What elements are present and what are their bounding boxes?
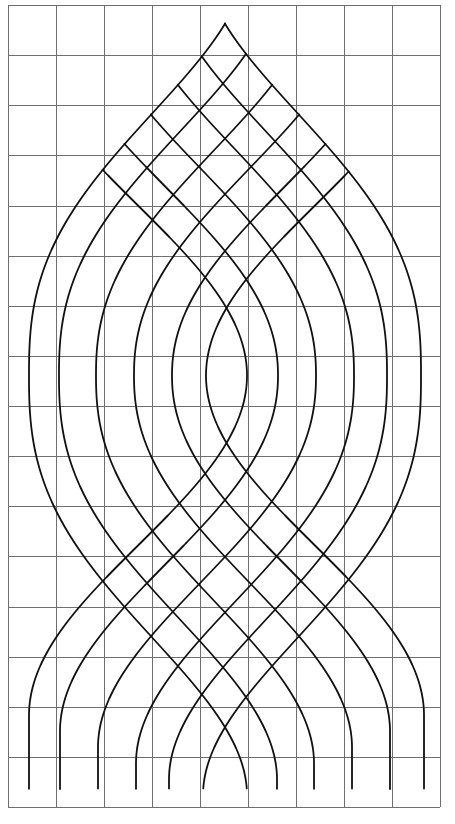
background-grid: [8, 5, 441, 808]
braid-diagram-canvas: [0, 0, 455, 824]
strand-right-5: [29, 170, 247, 789]
strand-left-3: [134, 115, 352, 789]
strand-left-5: [206, 172, 424, 789]
braid-diagram: [0, 0, 455, 824]
strand-right-1: [169, 57, 387, 789]
